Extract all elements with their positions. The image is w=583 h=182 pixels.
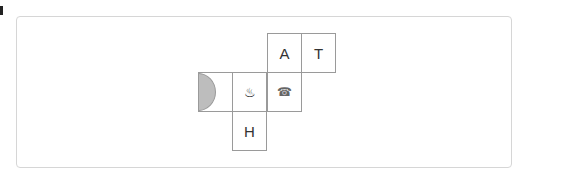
cell-label-h: H (244, 123, 255, 140)
cell-label-a: A (279, 45, 289, 62)
edge-mark (0, 6, 3, 15)
half-circle-shape (199, 73, 216, 111)
cell-label-t: T (314, 45, 323, 62)
net-cell-semicircle (198, 72, 233, 112)
net-cell-t: T (301, 33, 336, 73)
net-cell-a: A (267, 33, 302, 73)
net-cell-h: H (232, 111, 267, 151)
telephone-icon: ☎ (277, 86, 292, 98)
diagram-panel: A T ♨ ☎ H (16, 16, 512, 168)
net-cell-telephone: ☎ (267, 72, 302, 112)
hot-springs-icon: ♨ (244, 86, 256, 99)
net-cell-hot-springs: ♨ (232, 72, 267, 112)
